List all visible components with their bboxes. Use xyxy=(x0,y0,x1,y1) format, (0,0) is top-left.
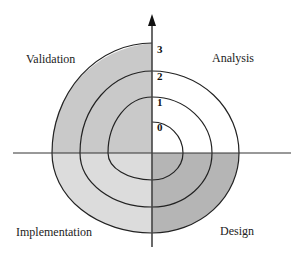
cycle-label-0: 0 xyxy=(157,121,163,133)
cycle-label-3: 3 xyxy=(157,43,163,55)
quadrant-label-implementation: Implementation xyxy=(16,225,92,240)
cycle-label-1: 1 xyxy=(157,96,163,108)
design-region xyxy=(152,153,239,233)
spiral-diagram xyxy=(0,0,304,254)
quadrant-label-validation: Validation xyxy=(26,52,75,67)
implementation-region xyxy=(52,153,152,233)
quadrant-label-design: Design xyxy=(220,224,254,239)
quadrant-label-analysis: Analysis xyxy=(212,51,254,66)
cycle-label-2: 2 xyxy=(157,70,163,82)
arrow-up-icon xyxy=(148,14,156,26)
